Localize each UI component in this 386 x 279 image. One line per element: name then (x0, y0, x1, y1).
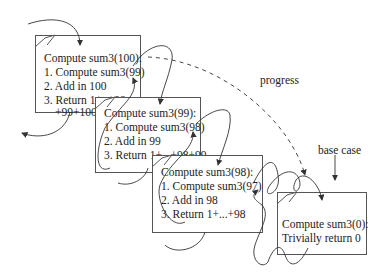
stack-frame-sum3-98: Compute sum3(98): 1. Compute sum3(97) 2.… (152, 155, 263, 233)
frame-step: Trivially return 0 (282, 232, 361, 245)
frame-step: 1. Compute sum3(97) (161, 180, 262, 193)
frame-title: Compute sum3(99): (104, 107, 196, 120)
frame-step: 1. Compute sum3(98) (104, 121, 205, 134)
base-case-label: base case (318, 144, 361, 156)
stack-frame-sum3-0: Compute sum3(0): Trivially return 0 (277, 192, 367, 255)
frame-title: Compute sum3(98): (161, 166, 253, 179)
frame-step: 2. Add in 98 (161, 194, 218, 207)
frame-step: 2. Add in 100 (44, 80, 107, 93)
folded-corner-icon (277, 192, 297, 206)
frame-step-continuation: +99+100 (55, 106, 97, 119)
frame-step: 3. Return 1+...+98 (161, 208, 246, 221)
progress-label: progress (260, 74, 299, 86)
frame-step: 1. Compute sum3(99) (44, 66, 145, 79)
folded-corner-icon (35, 35, 55, 49)
frame-title: Compute sum3(0): (282, 218, 369, 231)
frame-title: Compute sum3(100): (44, 52, 142, 65)
frame-step: 2. Add in 99 (104, 135, 161, 148)
exit-arrow (165, 232, 205, 250)
